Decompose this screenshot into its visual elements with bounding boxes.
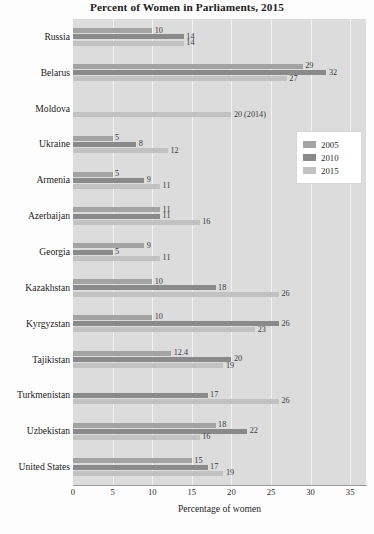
bar-2010[interactable] [73,34,184,39]
chart-figure: Percent of Women in Parliaments, 2015 Ru… [0,0,374,534]
legend-label-2005: 2005 [321,140,339,150]
bar-2005[interactable] [73,423,216,428]
bar-2015[interactable] [73,112,231,117]
category-label: Azerbaijan [0,211,70,221]
bar-2015[interactable] [73,363,223,368]
gridline [152,19,153,485]
bar-2005[interactable] [73,64,303,69]
legend-swatch-icon-2010 [303,154,316,161]
bar-2005[interactable] [73,172,113,177]
bar-value-label: 10 [155,313,163,321]
legend-swatch-icon-2005 [303,141,316,148]
bar-2015[interactable] [73,148,168,153]
bar-value-label: 18 [218,421,226,429]
bar-2010[interactable] [73,357,231,362]
bar-value-label: 26 [281,320,289,328]
bar-2010[interactable] [73,250,113,255]
bar-value-label: 16 [202,218,210,226]
bar-value-label: 5 [115,170,119,178]
bar-value-label: 10 [155,27,163,35]
bar-value-label: 16 [202,433,210,441]
category-label: Moldova [0,104,70,114]
bar-2015[interactable] [73,327,255,332]
legend-label-2015: 2015 [321,166,339,176]
bar-2015[interactable] [73,292,279,297]
legend-item-2005[interactable]: 2005 [303,138,356,151]
gridline [113,19,114,485]
category-label: United States [0,462,70,472]
gridline [311,19,312,485]
bar-value-label: 11 [163,182,171,190]
bar-2010[interactable] [73,321,279,326]
bar-2015[interactable] [73,256,160,261]
gridline [271,19,272,485]
bar-2015[interactable] [73,220,200,225]
bar-2005[interactable] [73,458,192,463]
bar-2015[interactable] [73,471,223,476]
bar-value-label: 11 [163,212,171,220]
x-tick-label: 25 [267,487,276,497]
legend-item-2010[interactable]: 2010 [303,151,356,164]
bar-2005[interactable] [73,136,113,141]
bar-2015[interactable] [73,184,160,189]
gridline [231,19,232,485]
category-label: Kazakhstan [0,283,70,293]
x-axis-label: Percentage of women [73,503,366,514]
bar-value-label: 29 [305,62,313,70]
category-label: Tajikistan [0,355,70,365]
bar-2005[interactable] [73,279,152,284]
bar-2005[interactable] [73,28,152,33]
bar-value-label: 23 [258,326,266,334]
bar-value-label: 18 [218,284,226,292]
x-tick-label: 0 [71,487,75,497]
x-tick-label: 35 [346,487,355,497]
bar-value-label: 8 [139,140,143,148]
category-axis-labels: RussiaBelarusMoldovaUkraineArmeniaAzerba… [0,19,70,485]
bar-value-label: 12.4 [174,349,188,357]
bar-2005[interactable] [73,315,152,320]
bar-value-label: 20 (2014) [234,111,266,119]
x-axis-line [73,485,367,486]
bar-value-label: 14 [186,39,194,47]
bar-value-label: 20 [234,355,242,363]
x-tick-label: 5 [110,487,114,497]
bar-value-label: 11 [163,254,171,262]
gridline [350,19,351,485]
bar-value-label: 17 [210,391,218,399]
bar-value-label: 19 [226,362,234,370]
bar-2010[interactable] [73,142,136,147]
bar-2015[interactable] [73,41,184,46]
bar-2010[interactable] [73,429,247,434]
bar-2010[interactable] [73,465,208,470]
bar-2005[interactable] [73,243,144,248]
chart-legend: 2005 2010 2015 [296,131,362,184]
bar-2010[interactable] [73,393,208,398]
bar-2015[interactable] [73,76,287,81]
bar-2010[interactable] [73,214,160,219]
bar-value-label: 26 [281,290,289,298]
bar-2010[interactable] [73,178,144,183]
bar-2010[interactable] [73,285,216,290]
chart-title: Percent of Women in Parliaments, 2015 [0,1,374,13]
bar-value-label: 9 [147,242,151,250]
bar-value-label: 12 [171,147,179,155]
plot-area: 10141429322720 (2014)5812591111111695111… [73,19,366,485]
bar-2015[interactable] [73,435,200,440]
bar-value-label: 9 [147,176,151,184]
bar-value-label: 10 [155,278,163,286]
gridline [192,19,193,485]
bar-2005[interactable] [73,207,160,212]
legend-swatch-icon-2015 [303,167,316,174]
x-tick-label: 15 [187,487,196,497]
bar-value-label: 5 [115,134,119,142]
category-label: Ukraine [0,139,70,149]
bar-value-label: 17 [210,463,218,471]
legend-item-2015[interactable]: 2015 [303,164,356,177]
bar-2015[interactable] [73,399,279,404]
x-tick-label: 20 [227,487,236,497]
bar-value-label: 15 [194,457,202,465]
category-label: Turkmenistan [0,390,70,400]
bar-2005[interactable] [73,351,171,356]
category-label: Armenia [0,175,70,185]
x-tick-label: 10 [148,487,157,497]
